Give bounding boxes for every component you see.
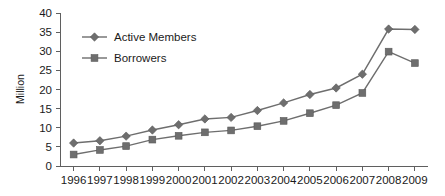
data-point-square (280, 117, 287, 124)
y-tick-label: 20 (39, 84, 52, 96)
data-point-diamond (279, 99, 287, 107)
data-point-square (254, 123, 261, 130)
x-tick-label: 2002 (218, 174, 244, 186)
data-point-diamond (122, 132, 130, 140)
data-point-square (96, 147, 103, 154)
x-tick-label: 2003 (245, 174, 271, 186)
data-point-diamond (306, 90, 314, 98)
x-tick-label: 2004 (271, 174, 297, 186)
y-tick-label: 5 (46, 141, 52, 153)
y-tick-label: 30 (39, 45, 52, 57)
data-point-square (123, 143, 130, 150)
x-axis: 1996199719981999200020012002200320042005… (61, 167, 428, 187)
line-chart: Million 0510152025303540 199619971998199… (0, 0, 445, 196)
data-point-diamond (332, 84, 340, 92)
data-point-square (385, 48, 392, 55)
legend-marker-square (91, 55, 98, 62)
data-point-square (175, 132, 182, 139)
x-tick-label: 2007 (350, 174, 376, 186)
legend-marker-diamond (90, 33, 98, 41)
data-point-square (201, 129, 208, 136)
x-tick-label: 2005 (297, 174, 323, 186)
y-tick-label: 15 (39, 103, 52, 115)
legend-label: Active Members (114, 31, 197, 43)
y-tick-label: 10 (39, 122, 52, 134)
data-point-square (70, 151, 77, 158)
data-point-square (306, 110, 313, 117)
data-point-square (149, 136, 156, 143)
data-point-square (411, 60, 418, 67)
data-point-square (333, 102, 340, 109)
y-tick-label: 40 (39, 7, 52, 19)
x-tick-label: 2008 (376, 174, 402, 186)
legend-label: Borrowers (114, 52, 167, 64)
data-point-diamond (69, 139, 77, 147)
y-axis-title-group: Million (14, 74, 26, 104)
series-borrowers (70, 48, 418, 158)
y-tick-label: 0 (46, 160, 52, 172)
data-point-diamond (227, 113, 235, 121)
series-line (74, 29, 415, 143)
data-point-square (228, 127, 235, 134)
data-point-diamond (411, 25, 419, 33)
data-point-diamond (201, 115, 209, 123)
data-point-square (359, 90, 366, 97)
data-point-diamond (174, 120, 182, 128)
x-tick-label: 2000 (166, 174, 192, 186)
y-tick-label: 25 (39, 64, 52, 76)
x-tick-label: 1998 (113, 174, 139, 186)
x-tick-label: 1996 (61, 174, 87, 186)
series-layer (69, 25, 419, 158)
y-axis-title: Million (14, 74, 26, 104)
data-point-diamond (148, 126, 156, 134)
x-tick-label: 1999 (140, 174, 166, 186)
legend-item-active-members[interactable]: Active Members (82, 31, 197, 43)
data-point-diamond (96, 137, 104, 145)
data-point-diamond (358, 70, 366, 78)
data-point-diamond (253, 106, 261, 114)
chart-legend: Active MembersBorrowers (82, 31, 197, 64)
data-point-diamond (384, 25, 392, 33)
legend-item-borrowers[interactable]: Borrowers (82, 52, 167, 64)
x-tick-label: 2001 (192, 174, 218, 186)
x-tick-label: 1997 (87, 174, 113, 186)
x-tick-label: 2006 (323, 174, 349, 186)
y-axis: 0510152025303540 (39, 7, 60, 172)
chart-canvas: Million 0510152025303540 199619971998199… (0, 0, 445, 196)
x-tick-label: 2009 (402, 174, 428, 186)
y-tick-label: 35 (39, 26, 52, 38)
